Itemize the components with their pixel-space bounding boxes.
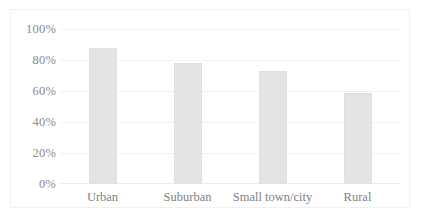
bar-small-town-city[interactable] — [259, 71, 287, 184]
bar-slot — [60, 29, 145, 184]
x-axis-category-label: Rural — [315, 189, 400, 207]
x-axis: Urban Suburban Small town/city Rural — [60, 189, 400, 211]
bar-rural[interactable] — [344, 93, 372, 184]
y-axis-tick-label: 20% — [0, 147, 56, 160]
y-axis-tick-label: 40% — [0, 116, 56, 129]
x-axis-category-label: Small town/city — [230, 189, 315, 207]
x-axis-category-label: Suburban — [145, 189, 230, 207]
bar-slot — [315, 29, 400, 184]
plot-area — [60, 29, 400, 184]
bar-series — [60, 29, 400, 184]
y-axis: 100% 80% 60% 40% 20% 0% — [0, 0, 56, 220]
y-axis-tick-label: 100% — [0, 23, 56, 36]
x-axis-category-label: Urban — [60, 189, 145, 207]
bar-chart-figure: 100% 80% 60% 40% 20% 0% — [0, 0, 421, 220]
bar-suburban[interactable] — [174, 63, 202, 184]
bar-urban[interactable] — [89, 48, 117, 184]
y-axis-tick-label: 60% — [0, 85, 56, 98]
y-axis-tick-label: 80% — [0, 54, 56, 67]
bar-slot — [230, 29, 315, 184]
y-axis-tick-label: 0% — [0, 178, 56, 191]
bar-slot — [145, 29, 230, 184]
